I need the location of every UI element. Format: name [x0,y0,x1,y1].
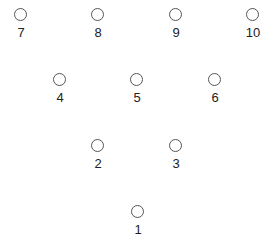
pin-label: 10 [238,26,268,40]
pin-circle-icon [14,8,27,21]
pin-10: 10 [238,8,268,48]
pin-circle-icon [169,139,182,152]
pin-6: 6 [200,73,230,113]
pin-circle-icon [53,73,66,86]
pin-label: 8 [83,26,113,40]
pin-label: 1 [123,223,153,237]
pin-circle-icon [131,205,144,218]
pin-circle-icon [208,73,221,86]
pin-label: 9 [161,26,191,40]
pin-4: 4 [45,73,75,113]
pin-label: 7 [6,26,36,40]
pin-1: 1 [123,205,153,245]
pin-label: 2 [83,157,113,171]
pin-label: 4 [45,91,75,105]
pin-circle-icon [91,139,104,152]
pin-circle-icon [91,8,104,21]
pin-5: 5 [122,73,152,113]
pin-label: 3 [161,157,191,171]
pin-3: 3 [161,139,191,179]
pin-circle-icon [246,8,259,21]
pin-label: 5 [122,91,152,105]
pin-2: 2 [83,139,113,179]
pin-label: 6 [200,91,230,105]
pin-9: 9 [161,8,191,48]
pin-circle-icon [130,73,143,86]
pin-7: 7 [6,8,36,48]
pin-circle-icon [169,8,182,21]
pin-8: 8 [83,8,113,48]
